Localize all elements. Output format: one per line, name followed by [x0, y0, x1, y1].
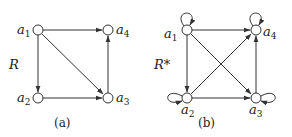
label-b-a1: a1	[164, 26, 178, 43]
edge-a1-a3	[42, 34, 103, 94]
caption-a: (a)	[54, 116, 71, 130]
labels-a: a1 a4 a2 a3 R (a)	[8, 22, 130, 130]
loop-a3	[261, 93, 275, 102]
loop-a4	[250, 13, 261, 26]
caption-b: (b)	[198, 116, 215, 130]
node-a2	[33, 93, 43, 103]
relation-label-r-star: R*	[153, 57, 171, 72]
node-a3	[103, 93, 113, 103]
label-a1: a1	[17, 22, 31, 39]
label-a2: a2	[17, 90, 31, 107]
label-a3: a3	[116, 90, 130, 107]
labels-b: a1 a4 a2 a3 R* (b)	[153, 24, 277, 130]
node-a1	[33, 25, 43, 35]
diagram-b	[168, 13, 276, 103]
node-a4	[103, 25, 113, 35]
label-b-a3: a3	[249, 102, 263, 119]
label-b-a2: a2	[181, 102, 195, 119]
relation-label-r: R	[8, 57, 19, 72]
node-b-a4	[251, 25, 261, 35]
label-a4: a4	[116, 22, 130, 39]
diagram-a	[33, 25, 113, 103]
relation-diagrams: a1 a4 a2 a3 R (a) a1 a4 a2 a3 R* (b)	[0, 0, 292, 137]
label-b-a4: a4	[263, 24, 277, 41]
node-b-a1	[182, 25, 192, 35]
loop-a1	[181, 13, 192, 26]
loop-a2	[168, 93, 182, 102]
